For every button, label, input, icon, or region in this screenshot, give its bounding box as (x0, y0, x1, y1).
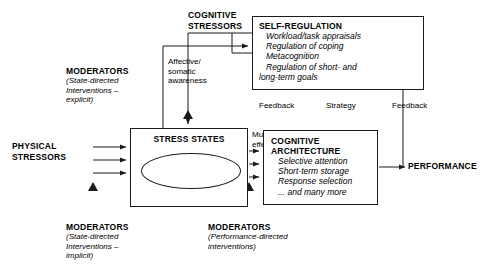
cognitive-architecture-item-1: Short-term storage (278, 166, 377, 176)
cognitive-stressors-line2: STRESSORS (188, 21, 242, 32)
moderators-implicit-line1: (State-directed (66, 232, 129, 242)
moderators-implicit-line3: implicit) (66, 251, 129, 261)
moderator-triangle-explicit (183, 110, 193, 119)
moderators-implicit-block: MODERATORS (State-directed Interventions… (66, 222, 129, 261)
affective-line3: awareness (168, 76, 207, 86)
self-regulation-item-2: Metacognition (266, 51, 423, 61)
cognitive-architecture-title-line2: ARCHITECTURE (271, 146, 377, 156)
moderators-explicit-line1: (State-directed (66, 76, 129, 86)
moderators-explicit-line2: Interventions – (66, 86, 129, 96)
affective-line2: somatic (168, 67, 207, 77)
self-regulation-title: SELF-REGULATION (259, 21, 423, 31)
feedback-right-label: Feedback (392, 101, 427, 111)
self-regulation-item-4: long-term goals (259, 72, 423, 82)
moderators-performance-line1: (Performance-directed (208, 232, 288, 242)
cognitive-architecture-title-line1: COGNITIVE (271, 136, 377, 146)
moderators-performance-block: MODERATORS (Performance-directed interve… (208, 222, 288, 251)
moderators-performance-line2: interventions) (208, 242, 288, 252)
moderators-explicit-header: MODERATORS (66, 66, 129, 76)
cognitive-architecture-item-3: ... and many more (278, 187, 377, 197)
self-regulation-item-1: Regulation of coping (266, 41, 423, 51)
moderators-implicit-line2: Interventions – (66, 242, 129, 252)
cognitive-architecture-item-0: Selective attention (278, 156, 377, 166)
feedback-left-label: Feedback (259, 101, 294, 111)
physical-stressors-label: PHYSICAL STRESSORS (12, 141, 66, 162)
moderators-performance-header: MODERATORS (208, 222, 288, 232)
performance-label: PERFORMANCE (408, 161, 477, 172)
physical-stressors-line2: STRESSORS (12, 152, 66, 163)
affective-line1: Affective/ (168, 57, 207, 67)
self-regulation-box[interactable]: SELF-REGULATION Workload/task appraisals… (252, 16, 424, 90)
moderators-implicit-header: MODERATORS (66, 222, 129, 232)
strategy-label: Strategy (326, 101, 356, 111)
stress-states-title: STRESS STATES (131, 134, 247, 144)
stress-states-box[interactable]: STRESS STATES Physiological (130, 128, 248, 207)
moderator-triangle-implicit (88, 182, 98, 191)
cognitive-stressors-label: COGNITIVE STRESSORS (188, 10, 242, 31)
self-regulation-item-3: Regulation of short- and (266, 62, 423, 72)
cognitive-architecture-item-2: Response selection (278, 176, 377, 186)
self-regulation-item-0: Workload/task appraisals (266, 31, 423, 41)
cognitive-architecture-box[interactable]: COGNITIVE ARCHITECTURE Selective attenti… (263, 130, 378, 205)
moderators-explicit-line3: explicit) (66, 95, 129, 105)
physical-stressors-line1: PHYSICAL (12, 141, 66, 152)
diagram-canvas: COGNITIVE STRESSORS SELF-REGULATION Work… (0, 0, 480, 278)
stress-states-ellipse (141, 153, 241, 189)
cognitive-stressors-line1: COGNITIVE (188, 10, 242, 21)
moderators-explicit-block: MODERATORS (State-directed Interventions… (66, 66, 129, 105)
affective-somatic-awareness-label: Affective/ somatic awareness (168, 57, 207, 86)
